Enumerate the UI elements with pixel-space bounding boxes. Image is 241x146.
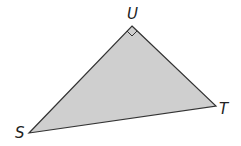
triangle-diagram: U S T [0,0,241,146]
vertex-label-s: S [15,124,25,142]
triangle-sut [29,26,216,133]
vertex-label-u: U [127,5,138,23]
vertex-label-t: T [219,100,230,118]
